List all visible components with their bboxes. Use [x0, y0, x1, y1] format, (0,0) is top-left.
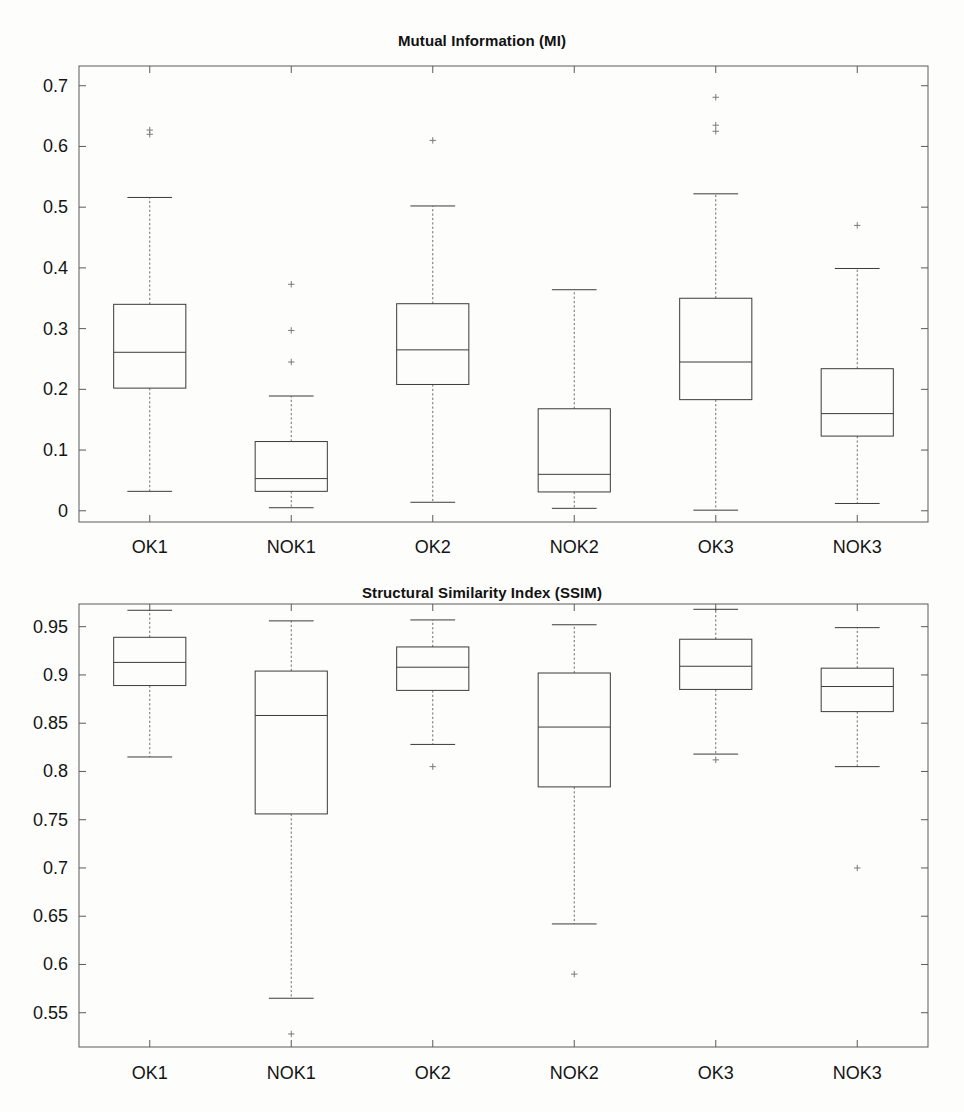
- y-tick-label: 0.8: [43, 761, 68, 781]
- box-body: [680, 639, 752, 689]
- x-category-label: OK3: [698, 1063, 734, 1083]
- boxplot-group: [255, 281, 327, 508]
- box-body: [538, 409, 610, 492]
- box-body: [397, 647, 469, 690]
- y-tick-label: 0.75: [33, 810, 68, 830]
- box-body: [538, 673, 610, 787]
- x-category-label: OK2: [415, 1063, 451, 1083]
- boxplot-canvas-mi: 00.10.20.30.40.50.60.7OK1NOK1OK2NOK2OK3N…: [0, 0, 964, 560]
- boxplot-group: [397, 137, 469, 502]
- plot-frame: [79, 604, 928, 1047]
- y-tick-label: 0.6: [43, 136, 68, 156]
- y-tick-label: 0.4: [43, 258, 68, 278]
- figure-structural-similarity: Structural Similarity Index (SSIM) 0.550…: [0, 552, 964, 1112]
- boxplot-group: [538, 290, 610, 509]
- box-body: [255, 442, 327, 492]
- y-tick-label: 0.5: [43, 197, 68, 217]
- boxplot-group: [680, 609, 752, 763]
- plot-frame: [79, 66, 928, 522]
- y-tick-label: 0.85: [33, 713, 68, 733]
- y-tick-label: 0.6: [43, 954, 68, 974]
- box-body: [114, 637, 186, 685]
- y-tick-label: 0.2: [43, 379, 68, 399]
- boxplot-group: [538, 625, 610, 978]
- y-tick-label: 0.55: [33, 1003, 68, 1023]
- boxplot-group: [255, 621, 327, 1037]
- boxplot-group: [114, 610, 186, 757]
- box-body: [114, 304, 186, 388]
- boxplot-figure-page: Mutual Information (MI) 00.10.20.30.40.5…: [0, 0, 964, 1112]
- x-category-label: OK1: [132, 1063, 168, 1083]
- boxplot-group: [821, 222, 893, 503]
- x-category-label: NOK3: [833, 1063, 882, 1083]
- y-tick-label: 0.95: [33, 617, 68, 637]
- y-tick-label: 0.3: [43, 319, 68, 339]
- box-body: [821, 369, 893, 436]
- x-category-label: NOK1: [267, 1063, 316, 1083]
- boxplot-group: [821, 628, 893, 872]
- y-tick-label: 0.65: [33, 906, 68, 926]
- boxplot-group: [397, 620, 469, 770]
- boxplot-group: [114, 127, 186, 491]
- boxplot-group: [680, 94, 752, 510]
- box-body: [397, 304, 469, 385]
- box-body: [821, 668, 893, 711]
- y-tick-label: 0.9: [43, 665, 68, 685]
- boxplot-canvas-ssim: 0.550.60.650.70.750.80.850.90.95OK1NOK1O…: [0, 552, 964, 1112]
- x-category-label: NOK2: [550, 1063, 599, 1083]
- y-tick-label: 0.1: [43, 440, 68, 460]
- figure-mutual-information: Mutual Information (MI) 00.10.20.30.40.5…: [0, 0, 964, 560]
- box-body: [255, 671, 327, 814]
- y-tick-label: 0.7: [43, 858, 68, 878]
- y-tick-label: 0: [58, 501, 68, 521]
- y-tick-label: 0.7: [43, 76, 68, 96]
- box-body: [680, 298, 752, 399]
